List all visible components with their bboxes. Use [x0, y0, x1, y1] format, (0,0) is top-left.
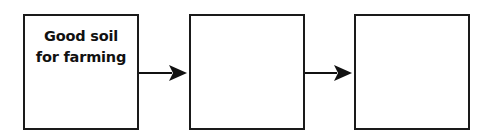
- arrow-right-icon: [305, 65, 352, 81]
- arrow-right-icon: [139, 65, 187, 81]
- arrows-layer: [0, 0, 483, 138]
